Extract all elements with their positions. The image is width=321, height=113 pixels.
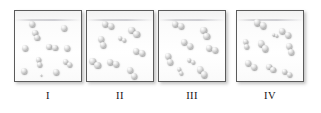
atom-sphere — [94, 62, 100, 68]
scan-streak — [15, 19, 81, 21]
scan-streak — [87, 19, 153, 21]
atom-sphere — [40, 74, 42, 76]
atom-sphere — [131, 73, 137, 79]
scan-streak — [237, 19, 303, 21]
atom-sphere — [262, 45, 268, 51]
atom-sphere — [285, 32, 291, 38]
atom-sphere — [178, 23, 184, 29]
panel-label-1: I — [14, 89, 82, 103]
atom-sphere — [251, 64, 257, 70]
atom-sphere — [52, 45, 58, 51]
panel-label-3: III — [158, 89, 226, 103]
panel-2 — [86, 10, 154, 82]
atom-sphere — [34, 35, 39, 40]
panel-4 — [236, 10, 304, 82]
atom-sphere — [167, 59, 173, 65]
panel-surface — [87, 11, 153, 81]
panel-labels-row: I II III IV — [0, 89, 321, 109]
panel-label-2: II — [86, 89, 154, 103]
atom-sphere — [133, 31, 139, 37]
atom-sphere — [67, 62, 72, 67]
panel-label-4: IV — [236, 89, 304, 103]
atom-sphere — [260, 22, 266, 28]
panel-1 — [14, 10, 82, 82]
atom-sphere — [201, 71, 207, 77]
panel-3 — [158, 10, 226, 82]
atom-sphere — [187, 43, 193, 49]
atom-sphere — [203, 33, 209, 39]
molecular-diagram: I II III IV — [0, 0, 321, 113]
scan-streak — [159, 19, 225, 21]
